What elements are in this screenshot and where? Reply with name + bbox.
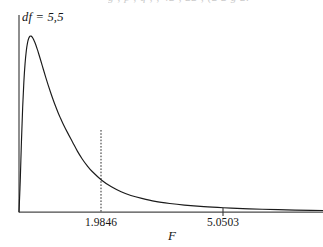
f-distribution-figure: g , p , q , , 42 , 22 , (2 2 g 2. df = 5… [0,0,323,247]
plot-canvas [0,0,323,247]
tick-label-5-0503: 5.0503 [207,216,239,228]
degrees-of-freedom-label: df = 5,5 [22,10,64,25]
density-curve [19,36,323,212]
tick-label-1-9846: 1.9846 [85,216,117,228]
x-axis-label: F [168,228,176,244]
